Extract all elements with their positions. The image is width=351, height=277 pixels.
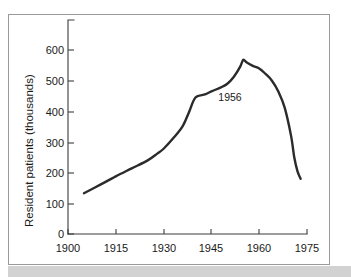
y-tick-label: 300 [46, 137, 64, 149]
x-tick-labels: 1900 1915 1930 1945 1960 1975 [56, 242, 319, 254]
x-tick-label: 1945 [199, 242, 223, 254]
x-tick-label: 1930 [152, 242, 176, 254]
y-tick-label: 100 [46, 198, 64, 210]
x-tick-label: 1915 [104, 242, 128, 254]
chart-figure: Resident patients (thousands) 600 500 40… [0, 0, 351, 277]
y-tick-marks [68, 50, 74, 234]
annotation-1956: 1956 [218, 91, 242, 103]
y-axis-line [68, 20, 74, 234]
x-tick-label: 1900 [56, 242, 80, 254]
data-series-line [84, 60, 301, 194]
y-tick-label: 600 [46, 44, 64, 56]
x-tick-label: 1975 [295, 242, 319, 254]
y-tick-labels: 600 500 400 300 200 100 0 [46, 44, 64, 240]
y-axis-title: Resident patients (thousands) [23, 74, 35, 227]
line-chart-plot: Resident patients (thousands) 600 500 40… [0, 0, 351, 277]
y-tick-label: 400 [46, 106, 64, 118]
y-tick-label: 500 [46, 75, 64, 87]
y-tick-label: 200 [46, 167, 64, 179]
x-tick-marks [68, 229, 307, 234]
y-tick-label: 0 [58, 228, 64, 240]
x-tick-label: 1960 [247, 242, 271, 254]
